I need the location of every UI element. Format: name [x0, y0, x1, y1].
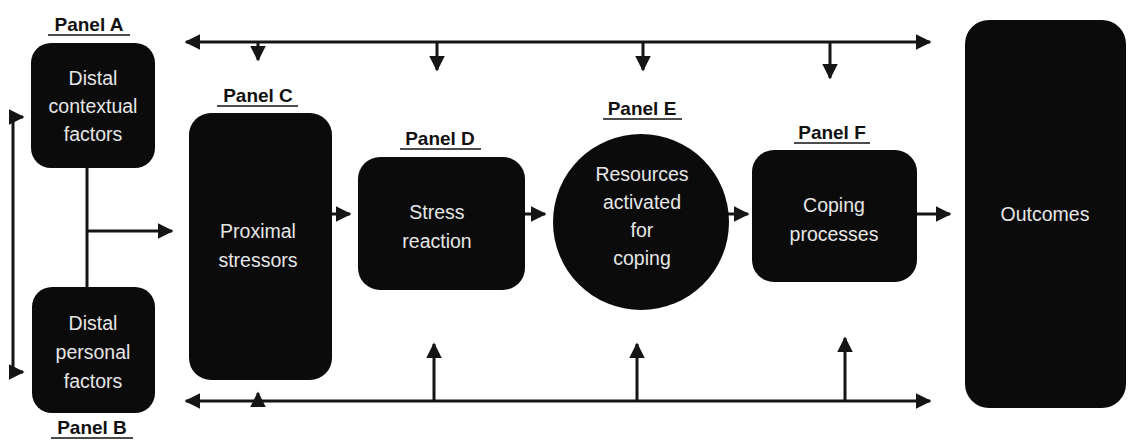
panel-b-label: Panel B — [57, 417, 127, 438]
panel-f: Panel F Coping processes — [752, 122, 917, 282]
panel-e-text-1: Resources — [595, 163, 688, 185]
panel-b-text-3: factors — [64, 370, 123, 392]
left-bus-connector — [13, 117, 23, 372]
panel-c-text-1: Proximal — [220, 220, 296, 242]
panel-f-label: Panel F — [798, 122, 866, 143]
panel-f-text-1: Coping — [803, 194, 865, 216]
panel-e-text-2: activated — [603, 191, 681, 213]
panel-b: Distal personal factors Panel B — [32, 287, 155, 438]
outcomes-text: Outcomes — [1001, 203, 1090, 225]
stress-coping-diagram: Panel A Distal contextual factors Distal… — [0, 0, 1133, 446]
panel-c-box — [189, 113, 332, 380]
top-bus-connector — [186, 42, 930, 78]
panel-c-label: Panel C — [223, 85, 293, 106]
panel-a-label: Panel A — [55, 14, 124, 35]
panel-f-text-2: processes — [790, 223, 879, 245]
panel-b-text-1: Distal — [69, 312, 118, 334]
panel-e-text-3: for — [631, 219, 654, 241]
panel-a-text-2: contextual — [49, 95, 138, 117]
panel-d: Panel D Stress reaction — [358, 128, 525, 290]
panel-f-box — [752, 150, 917, 282]
outcomes: Outcomes — [965, 20, 1126, 408]
panel-a-text-1: Distal — [69, 67, 118, 89]
ab-to-c-connector — [87, 168, 172, 288]
panel-a-text-3: factors — [64, 123, 123, 145]
panel-e: Panel E Resources activated for coping — [553, 98, 729, 310]
panel-e-label: Panel E — [608, 98, 677, 119]
panel-d-box — [358, 157, 525, 290]
panel-d-text-2: reaction — [402, 230, 471, 252]
panel-c-text-2: stressors — [218, 249, 297, 271]
panel-e-text-4: coping — [613, 247, 670, 269]
panel-c: Panel C Proximal stressors — [189, 85, 332, 380]
panel-a: Panel A Distal contextual factors — [31, 14, 155, 168]
panel-b-text-2: personal — [56, 341, 131, 363]
panel-d-text-1: Stress — [409, 201, 465, 223]
panel-d-label: Panel D — [405, 128, 475, 149]
